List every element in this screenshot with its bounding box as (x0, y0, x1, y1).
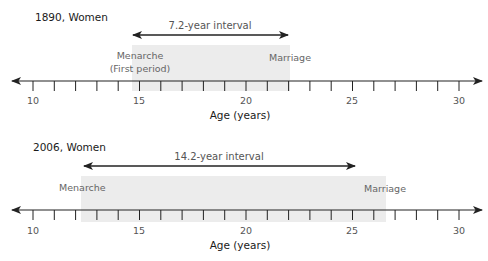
axes-and-arrows (0, 0, 488, 261)
axis-ticks-2006 (33, 210, 459, 220)
axis-ticks-1890 (33, 81, 459, 91)
